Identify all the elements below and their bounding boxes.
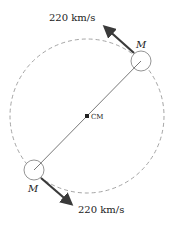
center-of-mass-dot: [85, 114, 89, 118]
velocity-arrow-lower: [41, 178, 70, 203]
velocity-arrow-upper: [106, 28, 134, 53]
center-of-mass-label: CM: [91, 113, 104, 121]
velocity-label-upper: 220 km/s: [49, 12, 95, 23]
velocity-label-lower: 220 km/s: [78, 204, 124, 215]
binary-star-diagram: CM M M 220 km/s 220 km/s: [0, 0, 171, 228]
mass-upper-label: M: [135, 39, 147, 50]
mass-lower-label: M: [27, 183, 39, 194]
